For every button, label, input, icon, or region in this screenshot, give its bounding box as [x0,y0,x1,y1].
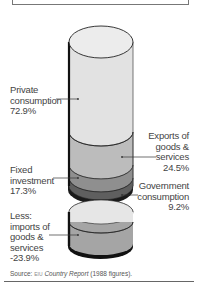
imports-cylinder [68,200,133,259]
source-prefix: Source: [10,270,34,277]
label-text: Less: [10,211,50,222]
label-value: 17.3% [10,186,54,197]
label-text: services [148,152,189,163]
source-suffix: (1988 figures). [88,270,132,277]
label-private-consumption: Private consumption 72.9% [10,85,62,117]
source-publication: Country Report [44,270,88,277]
label-value: -23.9% [10,253,50,264]
label-fixed-investment: Fixed investment 17.3% [10,165,54,197]
label-text: Fixed [10,165,54,176]
label-value: 72.9% [10,106,62,117]
label-text: Government [137,181,189,192]
label-value: 9.2% [137,202,189,213]
source-note: Source: EIU Country Report (1988 figures… [10,270,132,277]
label-text: Private [10,85,62,96]
label-text: goods & [10,232,50,243]
label-exports: Exports of goods & services 24.5% [148,131,189,173]
label-government: Government consumption 9.2% [137,181,189,213]
bottom-rule [4,281,194,282]
source-org: EIU [34,271,42,277]
label-value: 24.5% [148,163,189,174]
label-imports: Less: imports of goods & services -23.9% [10,211,50,264]
cylinder-top [69,26,133,58]
label-text: Exports of [148,131,189,142]
